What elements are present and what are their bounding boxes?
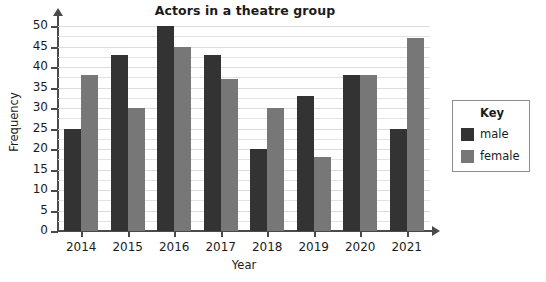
bar-female-2018 (267, 108, 284, 231)
y-axis-tick (51, 47, 58, 49)
y-axis-tick-label: 5 (4, 203, 48, 217)
chart-title: Actors in a theatre group (55, 3, 435, 18)
x-axis-tick (267, 231, 269, 237)
x-axis-tick (81, 231, 83, 237)
y-axis-tick-label: 50 (4, 18, 48, 32)
bar-female-2017 (221, 79, 238, 231)
gridline (58, 26, 430, 27)
bar-male-2018 (250, 149, 267, 231)
y-axis-tick (51, 88, 58, 90)
plot-area (58, 26, 430, 231)
bar-male-2020 (343, 75, 360, 231)
legend-label-male: male (480, 127, 509, 141)
bar-female-2016 (174, 47, 191, 232)
legend-swatch-male-icon (461, 128, 474, 141)
bar-male-2015 (111, 55, 128, 231)
y-axis-tick (51, 170, 58, 172)
y-axis-tick (51, 211, 58, 213)
bar-female-2021 (407, 38, 424, 231)
y-axis-tick (51, 190, 58, 192)
legend-swatch-female-icon (461, 150, 474, 163)
y-axis-tick-label: 0 (4, 223, 48, 237)
x-axis-tick (407, 231, 409, 237)
bar-male-2017 (204, 55, 221, 231)
y-axis-tick (51, 108, 58, 110)
y-axis-tick (51, 26, 58, 28)
x-axis-tick (174, 231, 176, 237)
legend-item-female: female (461, 149, 520, 163)
gridline (58, 47, 430, 48)
y-axis-title: Frequency (7, 62, 21, 182)
y-axis-tick (51, 129, 58, 131)
bar-male-2014 (64, 129, 81, 232)
bar-male-2021 (390, 129, 407, 232)
legend-item-male: male (461, 127, 509, 141)
bar-chart-figure: Actors in a theatre group 05101520253035… (0, 0, 546, 282)
x-axis-arrow-icon (432, 226, 440, 236)
bar-female-2020 (360, 75, 377, 231)
bar-female-2015 (128, 108, 145, 231)
y-axis-tick (51, 149, 58, 151)
bar-female-2014 (81, 75, 98, 231)
y-axis-tick (51, 231, 58, 233)
x-axis-tick (221, 231, 223, 237)
x-axis-tick (314, 231, 316, 237)
gridline-minor (58, 36, 430, 37)
legend-box: Key male female (452, 100, 530, 172)
bar-female-2019 (314, 157, 331, 231)
x-axis-tick (360, 231, 362, 237)
y-axis-tick-label: 10 (4, 182, 48, 196)
y-axis-tick-label: 45 (4, 39, 48, 53)
x-axis-title: Year (58, 258, 430, 272)
bar-male-2016 (157, 26, 174, 231)
x-axis-tick-label-2021: 2021 (378, 240, 436, 254)
legend-title: Key (453, 106, 531, 120)
x-axis-tick (128, 231, 130, 237)
legend-label-female: female (480, 149, 520, 163)
bar-male-2019 (297, 96, 314, 231)
y-axis-tick (51, 67, 58, 69)
